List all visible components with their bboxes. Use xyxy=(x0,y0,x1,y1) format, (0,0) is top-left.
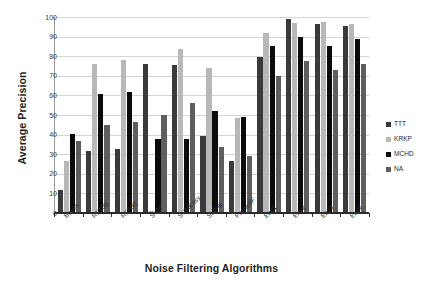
bar-mchd-svm xyxy=(155,139,160,212)
bar-krkp-ens2 xyxy=(292,23,297,212)
bar-ttt-ens3 xyxy=(315,24,320,212)
legend: TTTKRKPMCHDNA xyxy=(386,117,414,177)
legend-item-mchd[interactable]: MCHD xyxy=(386,147,414,162)
bar-mchd-prunesf xyxy=(241,117,246,212)
y-axis-tick-label: 100 xyxy=(33,14,57,21)
legend-label: TTT xyxy=(394,121,406,128)
bar-krkp-bayes xyxy=(64,161,69,212)
bar-group xyxy=(283,17,312,212)
bar-na-rf500 xyxy=(133,122,138,212)
bar-na-rf100 xyxy=(104,125,109,212)
bar-na-ens2 xyxy=(304,61,309,212)
bar-group xyxy=(312,17,341,212)
legend-item-na[interactable]: NA xyxy=(386,162,414,177)
bar-mchd-rf500 xyxy=(127,92,132,212)
bar-mchd-rf100 xyxy=(98,94,103,212)
bar-krkp-svmeasy xyxy=(178,49,183,212)
bar-group xyxy=(55,17,84,212)
y-axis-title: Average Precision xyxy=(16,38,28,198)
bar-groups xyxy=(55,17,369,212)
bar-krkp-satfilt xyxy=(206,68,211,212)
y-axis-tick-label: 10 xyxy=(33,190,57,197)
bar-krkp-ens1 xyxy=(263,33,268,212)
bar-ttt-svm xyxy=(143,64,148,212)
plot-area xyxy=(54,17,369,213)
y-axis-tick-label: 50 xyxy=(33,112,57,119)
bar-group xyxy=(198,17,227,212)
bar-mchd-bayes xyxy=(70,134,75,212)
bar-group xyxy=(340,17,369,212)
legend-swatch-icon xyxy=(386,152,391,157)
bar-group xyxy=(255,17,284,212)
legend-swatch-icon xyxy=(386,137,391,142)
bar-na-bayes xyxy=(76,141,81,212)
bar-group xyxy=(226,17,255,212)
legend-label: NA xyxy=(394,166,403,173)
bar-mchd-ens2 xyxy=(298,37,303,212)
bar-ttt-satfilt xyxy=(200,136,205,212)
y-axis-tick-label: 30 xyxy=(33,151,57,158)
y-axis-tick-label: 80 xyxy=(33,53,57,60)
y-axis-tick-label: 60 xyxy=(33,92,57,99)
bar-group xyxy=(169,17,198,212)
legend-item-krkp[interactable]: KRKP xyxy=(386,132,414,147)
bar-na-svm xyxy=(161,115,166,212)
bar-mchd-ens4 xyxy=(355,39,360,212)
legend-item-ttt[interactable]: TTT xyxy=(386,117,414,132)
bar-mchd-ens1 xyxy=(270,46,275,212)
bar-ttt-rf100 xyxy=(86,151,91,212)
bar-mchd-ens3 xyxy=(327,46,332,212)
bar-ttt-ens1 xyxy=(257,57,262,212)
bar-ttt-ens4 xyxy=(343,26,348,212)
bar-krkp-rf500 xyxy=(121,60,126,212)
bar-ttt-rf500 xyxy=(115,149,120,212)
bar-na-ens4 xyxy=(361,64,366,212)
legend-swatch-icon xyxy=(386,167,391,172)
y-axis-tick-label: 0 xyxy=(33,210,57,217)
bar-krkp-rf100 xyxy=(92,64,97,212)
y-axis-tick-label: 20 xyxy=(33,170,57,177)
legend-label: MCHD xyxy=(394,151,414,158)
y-axis-tick-label: 90 xyxy=(33,33,57,40)
x-axis-tick-labels: BayesRF100RF500SVMSVMEasySatFiltPruneSFE… xyxy=(54,215,369,259)
bar-group xyxy=(112,17,141,212)
bar-krkp-prunesf xyxy=(235,118,240,212)
bar-ttt-ens2 xyxy=(286,19,291,212)
bar-ttt-bayes xyxy=(58,190,63,212)
bar-krkp-ens3 xyxy=(321,22,326,212)
bar-na-ens1 xyxy=(276,76,281,212)
legend-swatch-icon xyxy=(386,122,391,127)
y-axis-tick-label: 70 xyxy=(33,72,57,79)
bar-group xyxy=(84,17,113,212)
bar-ttt-svmeasy xyxy=(172,65,177,212)
bar-group xyxy=(141,17,170,212)
bar-chart: Average Precision BayesRF100RF500SVMSVME… xyxy=(0,0,431,285)
bar-ttt-prunesf xyxy=(229,161,234,212)
bar-na-ens3 xyxy=(333,70,338,212)
bar-krkp-ens4 xyxy=(349,24,354,212)
bar-mchd-satfilt xyxy=(212,111,217,212)
x-axis-title: Noise Filtering Algorithms xyxy=(54,262,369,274)
legend-label: KRKP xyxy=(394,136,412,143)
x-axis-tick-mark xyxy=(369,213,370,217)
y-axis-tick-label: 40 xyxy=(33,131,57,138)
